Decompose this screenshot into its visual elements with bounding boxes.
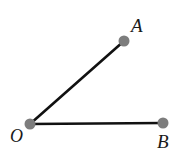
- point-dot-b: [158, 118, 169, 129]
- point-dot-a: [119, 36, 130, 47]
- segment-ob: [30, 123, 163, 124]
- point-label-a: A: [131, 16, 143, 35]
- point-label-o: O: [10, 127, 23, 145]
- point-dot-o: [25, 119, 36, 130]
- geometry-figure: A O B: [0, 0, 186, 156]
- point-label-b: B: [157, 132, 169, 151]
